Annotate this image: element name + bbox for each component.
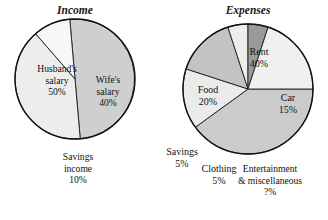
expenses-label-entertainment-misc: Entertainment& miscellaneous?% [238, 163, 302, 197]
income-label-husband-salary-line-2: 50% [48, 86, 66, 97]
income-label-husband-salary-line-0: Husband's [37, 63, 77, 74]
income-label-wife-salary: Wife'ssalary40% [96, 74, 121, 108]
expenses-label-clothing: Clothing5% [201, 163, 236, 186]
income-label-wife-salary-line-2: 40% [99, 97, 117, 108]
expenses-chart-title: Expenses [225, 4, 271, 17]
expenses-label-savings-line-0: Savings [166, 146, 198, 157]
expenses-label-food-line-0: Food [198, 84, 219, 95]
income-label-savings-income-line-2: 10% [69, 174, 87, 185]
income-label-husband-salary-line-1: salary [46, 75, 69, 86]
expenses-chart-group: Expenses Rent40%Car15%Food20%Savings5%Cl… [166, 4, 313, 197]
expenses-label-car-line-0: Car [281, 92, 296, 103]
expenses-label-car: Car15% [279, 92, 297, 115]
expenses-label-car-line-1: 15% [279, 104, 297, 115]
expenses-label-entertainment-misc-line-0: Entertainment [243, 163, 298, 174]
income-chart-title: Income [56, 4, 93, 16]
income-label-savings-income: Savingsincome10% [63, 151, 94, 185]
income-label-savings-income-line-0: Savings [63, 151, 94, 162]
expenses-label-rent: Rent40% [250, 46, 269, 69]
figure-canvas: Income Husband'ssalary50%Wife'ssalary40%… [0, 0, 328, 220]
income-label-savings-income-line-1: income [64, 163, 92, 174]
pie-charts-figure: Income Husband'ssalary50%Wife'ssalary40%… [0, 0, 328, 220]
expenses-label-savings: Savings5% [166, 146, 198, 169]
income-label-wife-salary-line-1: salary [97, 86, 120, 97]
income-label-wife-salary-line-0: Wife's [96, 74, 121, 85]
expenses-label-clothing-line-1: 5% [212, 175, 225, 186]
expenses-label-entertainment-misc-line-2: ?% [264, 186, 276, 197]
expenses-label-food: Food20% [198, 84, 219, 107]
expenses-label-entertainment-misc-line-1: & miscellaneous [238, 175, 302, 186]
expenses-label-savings-line-1: 5% [175, 158, 188, 169]
expenses-label-rent-line-1: 40% [250, 58, 268, 69]
income-chart-group: Income Husband'ssalary50%Wife'ssalary40%… [15, 4, 135, 185]
expenses-label-food-line-1: 20% [199, 96, 217, 107]
expenses-label-rent-line-0: Rent [250, 46, 269, 57]
expenses-label-clothing-line-0: Clothing [201, 163, 236, 174]
